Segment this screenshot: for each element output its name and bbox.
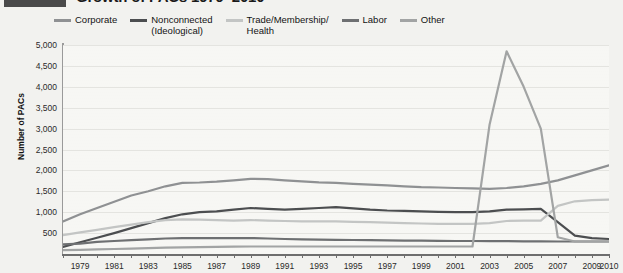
x-tick-label: 2010	[593, 261, 623, 271]
x-axis-tick	[97, 254, 98, 258]
x-axis-tick	[217, 254, 218, 258]
x-tick-label: 1997	[371, 261, 403, 271]
x-tick-label: 2001	[439, 261, 471, 271]
x-tick-label: 1985	[166, 261, 198, 271]
x-axis-tick	[251, 254, 252, 258]
x-axis-tick	[421, 254, 422, 258]
x-axis-tick	[507, 254, 508, 258]
x-tick-label: 1999	[405, 261, 437, 271]
x-axis-tick	[353, 254, 354, 258]
x-tick-label: 1995	[337, 261, 369, 271]
x-axis-tick	[609, 254, 610, 258]
x-axis-tick	[285, 254, 286, 258]
x-axis-tick	[234, 254, 235, 258]
x-axis-tick	[80, 254, 81, 258]
x-axis-tick	[404, 254, 405, 258]
x-tick-label: 2003	[474, 261, 506, 271]
x-axis-tick	[524, 254, 525, 258]
x-tick-label: 1981	[98, 261, 130, 271]
x-tick-label: 1991	[269, 261, 301, 271]
x-axis-tick	[455, 254, 456, 258]
x-tick-label: 2005	[508, 261, 540, 271]
x-axis-tick	[319, 254, 320, 258]
x-tick-label: 1979	[64, 261, 96, 271]
x-axis-tick	[131, 254, 132, 258]
x-tick-label: 1989	[235, 261, 267, 271]
x-tick-label: 1993	[303, 261, 335, 271]
x-axis-tick	[268, 254, 269, 258]
x-tick-label: 1983	[132, 261, 164, 271]
x-tick-label: 1987	[201, 261, 233, 271]
x-axis-tick	[575, 254, 576, 258]
x-axis-tick	[165, 254, 166, 258]
x-axis-tick	[558, 254, 559, 258]
x-axis-tick	[438, 254, 439, 258]
x-tick-label: 2007	[542, 261, 574, 271]
x-axis-tick	[182, 254, 183, 258]
x-axis-tick	[114, 254, 115, 258]
x-axis-tick	[200, 254, 201, 258]
x-axis-tick	[302, 254, 303, 258]
x-axis-tick	[541, 254, 542, 258]
x-axis-tick	[592, 254, 593, 258]
x-axis-tick	[63, 254, 64, 258]
x-axis-tick	[387, 254, 388, 258]
x-axis-tick	[148, 254, 149, 258]
x-axis-tick	[490, 254, 491, 258]
x-axis-tick	[370, 254, 371, 258]
x-axis-tick	[336, 254, 337, 258]
x-axis-tick	[473, 254, 474, 258]
